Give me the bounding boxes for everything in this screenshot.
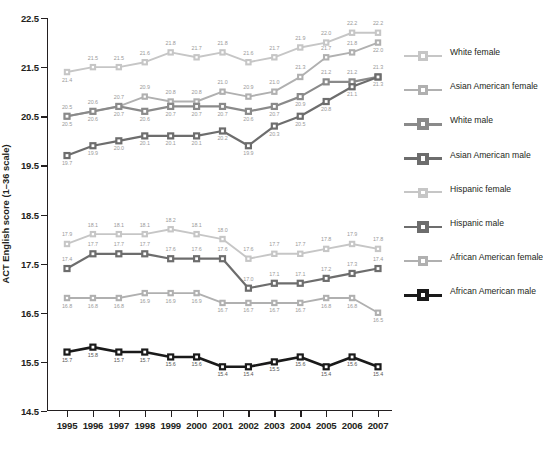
data-point-label: 16.7 bbox=[295, 307, 305, 313]
data-point-marker-core bbox=[325, 56, 327, 58]
plot-area: ACT English score (1–36 scale) 14.515.51… bbox=[47, 18, 392, 411]
data-point-marker-core bbox=[195, 105, 198, 108]
data-point-marker-core bbox=[273, 56, 275, 58]
x-tick-label: 2000 bbox=[186, 420, 207, 431]
x-tick bbox=[223, 410, 224, 417]
data-point-marker-core bbox=[66, 267, 69, 270]
y-tick-label: 15.5 bbox=[21, 356, 39, 367]
data-point-marker-core bbox=[299, 46, 301, 48]
data-point-label: 20.6 bbox=[243, 116, 253, 122]
data-point-label: 15.4 bbox=[321, 371, 331, 377]
data-point-label: 21.3 bbox=[373, 64, 383, 70]
legend-item[interactable]: African American male bbox=[404, 281, 542, 315]
data-point-marker-core bbox=[351, 80, 354, 83]
data-point-label: 20.7 bbox=[114, 111, 124, 117]
data-point-marker-core bbox=[195, 257, 198, 260]
data-point-label: 17.7 bbox=[295, 241, 305, 247]
legend-item[interactable]: Hispanic female bbox=[404, 179, 542, 213]
legend-swatch bbox=[404, 254, 442, 268]
x-tick bbox=[197, 410, 198, 417]
data-point-label: 18.1 bbox=[192, 222, 202, 228]
legend-marker bbox=[418, 256, 428, 266]
data-point-marker-core bbox=[299, 282, 302, 285]
data-point-marker-core bbox=[195, 135, 198, 138]
x-tick bbox=[274, 410, 275, 417]
data-point-label: 15.6 bbox=[166, 361, 176, 367]
data-point-marker-core bbox=[351, 272, 354, 275]
legend-item[interactable]: African American female bbox=[404, 247, 542, 281]
data-point-label: 20.8 bbox=[321, 106, 331, 112]
data-point-label: 21.8 bbox=[217, 40, 227, 46]
data-point-label: 15.7 bbox=[140, 357, 150, 363]
data-point-label: 17.2 bbox=[321, 266, 331, 272]
data-point-label: 17.6 bbox=[192, 246, 202, 252]
legend-item[interactable]: Hispanic male bbox=[404, 213, 542, 247]
data-point-label: 21.3 bbox=[373, 81, 383, 87]
y-tick bbox=[41, 411, 47, 412]
data-point-label: 15.4 bbox=[217, 371, 227, 377]
legend-item[interactable]: White female bbox=[404, 42, 542, 76]
legend-label: Hispanic female bbox=[450, 184, 511, 194]
x-tick bbox=[119, 410, 120, 417]
data-point-marker-core bbox=[118, 233, 120, 235]
data-point-label: 16.9 bbox=[166, 298, 176, 304]
data-point-label: 17.6 bbox=[217, 246, 227, 252]
x-tick-label: 1997 bbox=[109, 420, 130, 431]
x-tick bbox=[248, 410, 249, 417]
legend-swatch bbox=[404, 220, 442, 234]
y-tick-label: 19.5 bbox=[21, 160, 39, 171]
data-point-label: 20.7 bbox=[217, 111, 227, 117]
data-point-marker-core bbox=[299, 115, 302, 118]
legend-item[interactable]: Asian American female bbox=[404, 76, 542, 110]
legend-swatch bbox=[404, 49, 442, 63]
x-tick bbox=[171, 410, 172, 417]
data-point-label: 15.6 bbox=[295, 361, 305, 367]
data-point-label: 17.4 bbox=[373, 256, 383, 262]
data-point-label: 15.8 bbox=[88, 352, 98, 358]
data-point-marker-core bbox=[66, 297, 68, 299]
data-point-label: 21.0 bbox=[217, 79, 227, 85]
data-point-label: 20.6 bbox=[88, 99, 98, 105]
data-point-marker-core bbox=[92, 233, 94, 235]
data-point-label: 17.8 bbox=[373, 236, 383, 242]
legend-label: African American male bbox=[450, 286, 536, 296]
data-point-label: 20.5 bbox=[295, 121, 305, 127]
data-point-marker-core bbox=[247, 95, 249, 97]
data-point-label: 22.2 bbox=[347, 20, 357, 26]
data-point-label: 22.0 bbox=[373, 47, 383, 53]
data-point-label: 21.0 bbox=[269, 79, 279, 85]
data-point-label: 15.4 bbox=[243, 371, 253, 377]
legend-item[interactable]: Asian American male bbox=[404, 145, 542, 179]
data-point-label: 15.7 bbox=[62, 357, 72, 363]
data-point-marker-core bbox=[377, 267, 380, 270]
data-point-marker-core bbox=[325, 100, 328, 103]
data-point-label: 19.7 bbox=[62, 160, 72, 166]
data-point-label: 20.2 bbox=[217, 135, 227, 141]
data-point-marker-core bbox=[195, 292, 197, 294]
x-tick-label: 2002 bbox=[238, 420, 259, 431]
data-point-label: 20.7 bbox=[114, 94, 124, 100]
data-point-label: 18.1 bbox=[114, 222, 124, 228]
data-point-label: 20.1 bbox=[192, 140, 202, 146]
data-point-marker-core bbox=[170, 228, 172, 230]
data-point-label: 16.7 bbox=[217, 307, 227, 313]
legend: White femaleAsian American femaleWhite m… bbox=[404, 42, 542, 316]
x-tick bbox=[326, 410, 327, 417]
data-point-marker-core bbox=[143, 252, 146, 255]
x-tick bbox=[67, 410, 68, 417]
legend-marker bbox=[417, 153, 429, 165]
data-point-marker-core bbox=[66, 243, 68, 245]
legend-item[interactable]: White male bbox=[404, 110, 542, 144]
data-point-marker-core bbox=[92, 346, 95, 349]
x-tick-label: 1996 bbox=[83, 420, 104, 431]
data-point-marker-core bbox=[117, 105, 120, 108]
data-point-marker-core bbox=[221, 105, 224, 108]
x-tick-label: 2003 bbox=[264, 420, 285, 431]
data-point-marker-core bbox=[247, 258, 249, 260]
data-point-marker-core bbox=[221, 51, 223, 53]
x-tick-label: 1999 bbox=[160, 420, 181, 431]
data-point-marker-core bbox=[144, 233, 146, 235]
data-point-marker-core bbox=[377, 41, 379, 43]
data-point-marker-core bbox=[247, 302, 249, 304]
y-tick-label: 21.5 bbox=[21, 62, 39, 73]
